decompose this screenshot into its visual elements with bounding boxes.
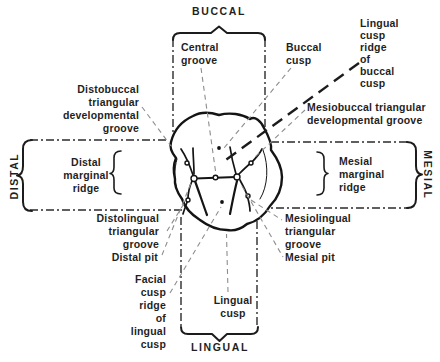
label-line: ridge [46,182,126,195]
mesial-orientation-label: MESIAL [420,140,434,210]
mesial-marginal-ridge-brace [317,152,328,195]
label-line: ridge [360,41,399,53]
distal-orientation-label: DISTAL [8,141,22,211]
label-line: Lingual [207,294,259,307]
mesial-marginal-ridge-label: Mesial marginal ridge [339,155,384,194]
central-groove-label: Central groove [181,41,219,67]
buccal-orientation-label: BUCCAL [173,5,265,18]
label-line: cusp [360,77,399,89]
label-line: triangular [59,225,159,238]
mesiobuccal-groove-circle [249,161,253,165]
label-line: groove [59,238,159,251]
mesiolingual-triangular-groove-label: Mesiolingual triangular groove [285,212,351,251]
lingual-cusp-leader [227,234,229,292]
distobuccal-triangular-developmental-groove-label: Distobuccal triangular developmental gro… [34,83,139,135]
label-line: cusp [207,307,259,320]
label-line: cusp [110,286,166,299]
distal-pit-circle [191,176,197,182]
lingual-brace [181,327,258,341]
central-groove-circle [213,175,218,180]
label-line: cusp [110,338,166,351]
mesiobuccal-triangular-developmental-groove-label: Mesiobuccal triangular developmental gro… [307,101,426,127]
label-line: Mesial pit [285,251,335,264]
label-line: triangular [34,96,139,109]
distal-pit-leader [162,183,191,255]
facial-cusp-ridge-of-lingual-cusp-label: Facial cusp ridge of lingual cusp [110,273,166,351]
buccal-cusp-label: Buccal cusp [286,41,322,67]
label-line: Lingual [360,17,399,29]
label-line: groove [181,54,219,67]
label-line: lingual [110,325,166,338]
label-line: marginal [339,168,384,181]
lingual-orientation-label: LINGUAL [176,341,264,354]
label-line: Mesial [339,155,384,168]
distal-marginal-ridge-label: Distal marginal ridge [46,156,126,195]
mesial-pit-circle [234,174,240,180]
label-line: triangular [285,225,351,238]
label-line: Distolingual [59,212,159,225]
label-line: Distal [46,156,126,169]
label-line: cusp [360,29,399,41]
buccal-brace [173,27,265,41]
label-line: ridge [110,299,166,312]
tooth-anatomy-diagram: BUCCAL LINGUAL DISTAL MESIAL Central gro… [0,0,440,362]
distal-pit-label: Distal pit [78,251,158,264]
label-line: marginal [46,169,126,182]
label-line: of [360,53,399,65]
distobuccal-groove-circle [185,161,189,165]
label-line: groove [34,122,139,135]
label-line: Mesiolingual [285,212,351,225]
label-line: Central [181,41,219,54]
buccal-cusp-dot [217,146,221,150]
label-line: developmental groove [307,114,426,127]
distolingual-groove-circle [186,198,190,202]
label-line: buccal [360,65,399,77]
label-line: of [110,312,166,325]
label-line: developmental [34,109,139,122]
distolingual-groove-leader [167,202,185,231]
label-line: groove [285,238,351,251]
lingual-cusp-dot [220,200,224,204]
lingual-cusp-ridge-of-buccal-cusp-label: Lingual cusp ridge of buccal cusp [360,17,399,89]
distolingual-triangular-groove-label: Distolingual triangular groove [59,212,159,251]
lingual-cusp-label: Lingual cusp [207,294,259,320]
label-line: Distal pit [78,251,158,264]
mesial-pit-label: Mesial pit [285,251,335,264]
facial-cusp-ridge-leader [170,207,221,293]
label-line: cusp [286,54,322,67]
distal-buccal-branch-path [193,148,194,174]
label-line: ridge [339,181,384,194]
label-line: Mesiobuccal triangular [307,101,426,114]
label-line: Facial [110,273,166,286]
label-line: Buccal [286,41,322,54]
label-line: Distobuccal [34,83,139,96]
